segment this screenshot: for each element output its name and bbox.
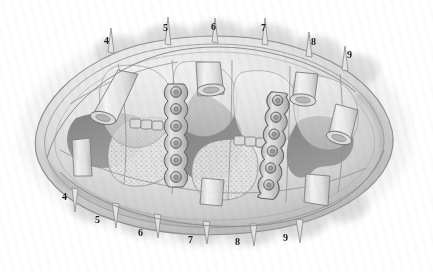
label-bottom-8: 8 — [235, 237, 240, 247]
paper-grain — [0, 0, 433, 272]
label-top-7: 7 — [261, 23, 266, 33]
label-bottom-4: 4 — [62, 192, 67, 202]
label-bottom-7: 7 — [188, 235, 193, 245]
label-top-8: 8 — [311, 37, 316, 47]
label-top-6: 6 — [211, 22, 216, 32]
anatomical-figure: 4 5 6 7 8 9 4 5 6 7 8 9 — [0, 0, 433, 272]
label-bottom-9: 9 — [283, 233, 288, 243]
illustration-canvas — [0, 0, 433, 272]
label-bottom-6: 6 — [138, 228, 143, 238]
label-top-4: 4 — [104, 36, 109, 46]
label-bottom-5: 5 — [95, 215, 100, 225]
label-top-9: 9 — [347, 50, 352, 60]
label-top-5: 5 — [163, 23, 168, 33]
